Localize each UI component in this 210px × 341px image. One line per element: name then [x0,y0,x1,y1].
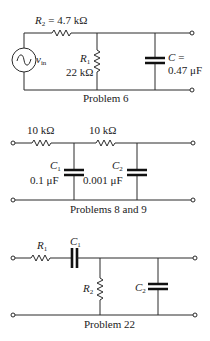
c1-label: C1 [50,159,61,173]
r1-label: R1 [36,239,48,253]
r1-value: 22 kΩ [66,66,93,78]
c-value: 0.47 μF [168,64,202,76]
caption-problem-22: Problem 22 [84,318,135,330]
input-terminal-bottom [11,198,15,202]
r2-label: R2 [82,282,94,296]
vin-label: vin [36,53,47,67]
r1-label: R1 [79,52,91,66]
capacitor-c2-symbol [148,284,168,289]
c1-value: 0.1 μF [30,174,59,186]
input-terminal-bottom [11,313,15,317]
resistor-2-value: 10 kΩ [89,124,116,136]
output-terminal-bottom [193,313,197,317]
output-terminal-top [193,256,197,260]
c-label: C= [168,51,185,63]
capacitor-c1-symbol [64,170,84,175]
output-terminal-bottom [191,198,195,202]
sine-wave-icon [17,55,31,65]
output-terminal-top [191,141,195,145]
output-terminal-bottom [190,88,194,92]
r2-label: R2= 4.7 kΩ [34,14,87,28]
resistor-r2-symbol [52,30,71,36]
caption-problems-8-9: Problems 8 and 9 [70,203,147,215]
capacitor-c-symbol [145,58,165,63]
input-terminal-top [11,256,15,260]
resistor-2-symbol [96,140,115,146]
circuit-problems-8-9: 10 kΩ 10 kΩ C1 0.1 μF C2 0.001 μF Proble… [11,124,195,215]
resistor-r1-symbol [94,33,100,90]
c2-label: C2 [135,281,146,295]
resistor-1-symbol [32,140,51,146]
c1-label: C1 [70,235,81,249]
c2-value: 0.001 μF [83,174,123,186]
circuit-diagrams: R2= 4.7 kΩ vin R1 22 kΩ C= 0.47 μF Probl… [0,0,210,341]
resistor-1-value: 10 kΩ [27,124,54,136]
resistor-r2-symbol [97,258,103,315]
input-terminal-top [11,141,15,145]
circuit-problem-6: R2= 4.7 kΩ vin R1 22 kΩ C= 0.47 μF Probl… [12,14,202,104]
caption-problem-6: Problem 6 [83,92,129,104]
capacitor-c1-symbol [72,248,77,268]
circuit-problem-22: R1 C1 R2 C2 Problem 22 [11,235,197,330]
capacitor-c2-symbol [127,170,147,175]
output-terminal-top [190,31,194,35]
c2-label: C2 [112,159,123,173]
resistor-r1-symbol [31,255,50,261]
